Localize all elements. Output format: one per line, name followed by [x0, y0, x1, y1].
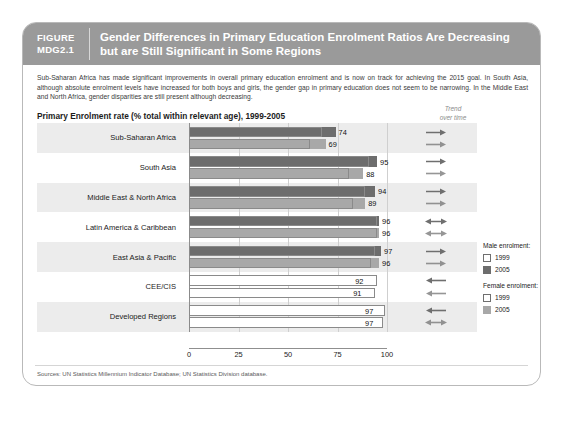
figure-number-line1: FIGURE	[37, 32, 89, 45]
chart-legend: Male enrolment: 1999 2005 Female enrolme…	[483, 241, 541, 317]
bar-value-male: 97	[365, 306, 373, 315]
bar-value-male: 96	[382, 217, 390, 226]
trend-cell	[397, 302, 475, 332]
bar-value-male: 95	[380, 157, 388, 166]
trend-column-header: Trend over time	[427, 105, 479, 122]
trend-arrow-female-right-icon	[397, 258, 475, 269]
chart-title: Primary Enrolment rate (% total within r…	[37, 111, 285, 121]
source-note: Sources: UN Statistics Millennium Indica…	[37, 371, 517, 377]
figure-title-line2: but are Still Significant in Some Region…	[100, 44, 510, 59]
row-label: South Asia	[37, 153, 182, 183]
intro-paragraph: Sub-Saharan Africa has made significant …	[37, 73, 528, 102]
chart-row: South Asia9588	[37, 153, 477, 183]
bar-group-female: 69	[189, 139, 387, 150]
legend-male-heading: Male enrolment:	[483, 241, 541, 251]
bar-group-male: 96	[189, 216, 387, 227]
row-label: East Asia & Pacific	[37, 242, 182, 272]
x-tick-label: 75	[333, 350, 341, 359]
header-divider	[89, 28, 90, 60]
legend-swatch-female-1999	[483, 294, 491, 302]
gridline	[387, 123, 388, 153]
chart-plot-area: Sub-Saharan Africa7469South Asia9588Midd…	[37, 123, 477, 348]
bar-group-female: 88	[189, 168, 387, 179]
bar-value-female: 96	[382, 229, 390, 238]
trend-cell	[397, 272, 475, 302]
figure-number: FIGURE MDG2.1	[37, 32, 89, 57]
chart-row: Developed Regions9797	[37, 302, 477, 332]
trend-arrow-male-right-icon	[397, 156, 475, 167]
legend-item-female-2005: 2005	[483, 305, 541, 315]
legend-label-male-1999: 1999	[495, 253, 510, 263]
bar-group-male: 97	[189, 305, 387, 316]
page-root: FIGURE MDG2.1 Gender Differences in Prim…	[0, 0, 563, 435]
row-label: Middle East & North Africa	[37, 183, 182, 213]
legend-label-female-2005: 2005	[495, 305, 510, 315]
bar-value-male: 94	[378, 187, 386, 196]
trend-cell	[397, 183, 475, 213]
bar-value-female: 96	[382, 259, 390, 268]
trend-cell	[397, 212, 475, 242]
row-label: CEE/CIS	[37, 272, 182, 302]
gridline	[387, 302, 388, 332]
legend-item-male-2005: 2005	[483, 265, 541, 275]
legend-item-female-1999: 1999	[483, 293, 541, 303]
legend-swatch-male-2005	[483, 266, 491, 274]
bar-male-1999	[189, 275, 377, 286]
trend-arrow-female-right-icon	[397, 198, 475, 209]
figure-card: FIGURE MDG2.1 Gender Differences in Prim…	[22, 22, 541, 386]
bar-male-1999	[189, 186, 365, 197]
x-tick-label: 25	[234, 350, 242, 359]
bar-value-female: 97	[365, 318, 373, 327]
trend-cell	[397, 242, 475, 272]
figure-number-line2: MDG2.1	[37, 44, 89, 57]
trend-arrow-male-both-icon	[397, 216, 475, 227]
bar-value-male: 92	[355, 276, 363, 285]
trend-arrow-male-right-icon	[397, 127, 475, 138]
trend-arrow-female-left-icon	[397, 288, 475, 299]
bar-female-1999	[189, 228, 377, 239]
bar-group-male: 74	[189, 127, 387, 138]
legend-swatch-female-2005	[483, 306, 491, 314]
legend-female-heading: Female enrolment:	[483, 281, 541, 291]
bar-value-female: 89	[368, 199, 376, 208]
trend-header-line1: Trend	[427, 105, 479, 114]
bar-female-1999	[189, 317, 383, 328]
x-tick-label: 100	[381, 350, 393, 359]
bar-female-1999	[189, 198, 353, 209]
trend-arrow-male-left-icon	[397, 275, 475, 286]
footer-divider	[35, 365, 528, 366]
legend-swatch-male-1999	[483, 254, 491, 262]
trend-cell	[397, 123, 475, 153]
trend-cell	[397, 153, 475, 183]
bar-group-female: 96	[189, 258, 387, 269]
bar-female-1999	[189, 258, 371, 269]
bar-value-female: 91	[353, 288, 361, 297]
bar-female-1999	[189, 139, 310, 150]
bar-value-female: 88	[366, 169, 374, 178]
bar-male-1999	[189, 246, 375, 257]
bar-value-male: 74	[339, 127, 347, 136]
bar-group-male: 92	[189, 275, 387, 286]
bar-male-1999	[189, 305, 385, 316]
bar-female-1999	[189, 168, 349, 179]
figure-title-line1: Gender Differences in Primary Education …	[100, 30, 510, 45]
bar-group-female: 97	[189, 317, 387, 328]
bar-female-1999	[189, 288, 375, 299]
chart-row: Middle East & North Africa9489	[37, 183, 477, 213]
row-label: Sub-Saharan Africa	[37, 123, 182, 153]
x-tick-label: 50	[284, 350, 292, 359]
gridline	[387, 272, 388, 302]
bar-value-female: 69	[329, 139, 337, 148]
bar-group-male: 94	[189, 186, 387, 197]
bar-group-male: 97	[189, 246, 387, 257]
trend-arrow-female-right-icon	[397, 168, 475, 179]
legend-item-male-1999: 1999	[483, 253, 541, 263]
trend-arrow-male-left-icon	[397, 305, 475, 316]
trend-arrow-male-right-icon	[397, 186, 475, 197]
figure-title: Gender Differences in Primary Education …	[100, 30, 510, 59]
x-axis-line	[189, 348, 387, 349]
legend-label-female-1999: 1999	[495, 293, 510, 303]
x-tick-label: 0	[187, 350, 191, 359]
x-axis: 0255075100	[37, 350, 477, 364]
bar-group-female: 96	[189, 228, 387, 239]
